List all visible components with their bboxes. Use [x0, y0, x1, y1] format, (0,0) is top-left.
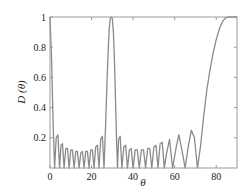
y-tick-label: 0.2 [34, 132, 47, 143]
x-tick-label: 20 [87, 171, 97, 182]
chart: D (θ) θ 0.20.40.60.81 020406080 [0, 0, 250, 193]
y-axis-label-text: D (θ) [15, 80, 28, 105]
x-tick-label: 80 [211, 171, 221, 182]
series-line [50, 17, 237, 168]
x-tick-label: 40 [128, 171, 138, 182]
y-tick-labels: 0.20.40.60.81 [34, 12, 47, 144]
x-tick-label: 0 [48, 171, 53, 182]
x-axis-label: θ [140, 176, 146, 188]
axes-box [50, 17, 237, 168]
y-tick-label: 0.6 [34, 72, 47, 83]
y-tick-label: 1 [41, 12, 46, 23]
x-tick-labels: 020406080 [48, 171, 222, 182]
y-tick-label: 0.4 [34, 102, 47, 113]
tick-marks [50, 17, 237, 168]
x-tick-label: 60 [170, 171, 180, 182]
y-tick-label: 0.8 [34, 42, 47, 53]
y-axis-label: D (θ) [15, 80, 28, 105]
